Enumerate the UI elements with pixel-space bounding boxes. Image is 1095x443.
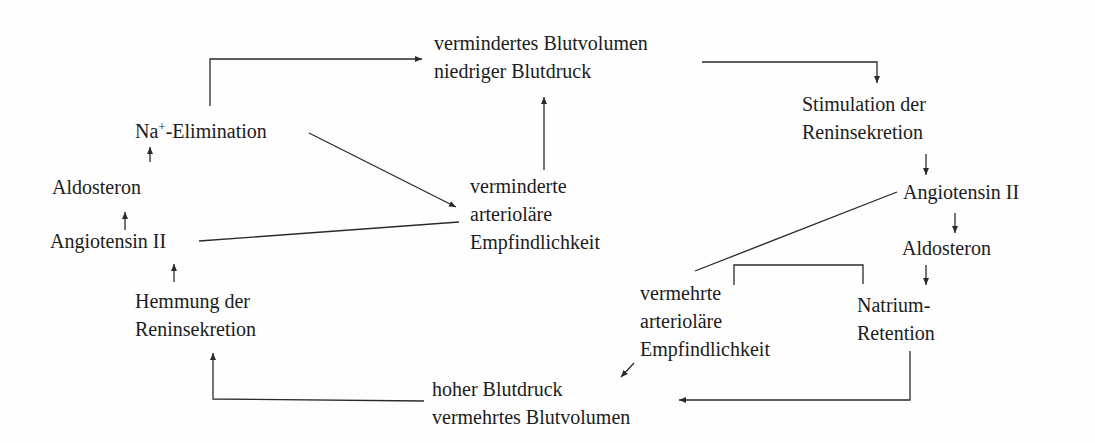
node-increased-arteriolar-sensitivity: vermehrte arterioläre Empfindlichkeit [640, 279, 770, 363]
node-natrium-retention: Natrium- Retention [857, 291, 935, 347]
node-stim-renin-line1: Stimulation der [802, 90, 926, 118]
node-aldosteron-left-label: Aldosteron [52, 173, 141, 201]
edge-low-volume-to-stim-renin [702, 62, 877, 83]
node-angiotensin-right-label: Angiotensin II [903, 178, 1019, 206]
node-aldosteron-left: Aldosteron [52, 173, 141, 201]
node-natrium-line2: Retention [857, 319, 935, 347]
node-stimulation-renin: Stimulation der Reninsekretion [802, 90, 926, 146]
edge-angiotensin-left-to-decreased-sensitivity [199, 222, 459, 241]
node-stim-renin-line2: Reninsekretion [802, 118, 926, 146]
node-angiotensin-left: Angiotensin II [50, 227, 166, 255]
na-superscript: + [158, 119, 165, 134]
node-decreased-arteriolar-sensitivity: verminderte arterioläre Empfindlichkeit [470, 172, 600, 256]
edge-angiotensin-right-to-increased-sensitivity [695, 192, 897, 271]
node-decreased-line3: Empfindlichkeit [470, 228, 600, 256]
na-prefix: Na [135, 120, 158, 142]
node-inhib-renin-line2: Reninsekretion [135, 315, 256, 343]
node-inhib-renin-line1: Hemmung der [135, 287, 256, 315]
node-increased-line1: vermehrte [640, 279, 770, 307]
node-natrium-line1: Natrium- [857, 291, 935, 319]
na-suffix: -Elimination [166, 120, 267, 142]
node-high-pressure-line1: hoher Blutdruck [432, 375, 630, 403]
node-low-volume-line1: vermindertes Blutvolumen [434, 29, 648, 57]
edge-na-elimination-to-low-volume [210, 59, 422, 106]
node-increased-line2: arterioläre [640, 307, 770, 335]
renin-angiotensin-feedback-diagram: vermindertes Blutvolumen niedriger Blutd… [0, 0, 1095, 443]
node-high-pressure-line2: vermehrtes Blutvolumen [432, 403, 630, 431]
node-decreased-line1: verminderte [470, 172, 600, 200]
node-na-elimination: Na+-Elimination [135, 117, 267, 145]
edge-high-pressure-to-inhib-renin [213, 353, 424, 401]
node-aldosteron-right: Aldosteron [902, 234, 991, 262]
edge-na-elimination-to-decreased-sensitivity [309, 133, 456, 207]
node-low-volume-low-pressure: vermindertes Blutvolumen niedriger Blutd… [434, 29, 648, 85]
node-inhibition-renin: Hemmung der Reninsekretion [135, 287, 256, 343]
node-angiotensin-right: Angiotensin II [903, 178, 1019, 206]
node-decreased-line2: arterioläre [470, 200, 600, 228]
node-aldosteron-right-label: Aldosteron [902, 234, 991, 262]
node-high-pressure-high-volume: hoher Blutdruck vermehrtes Blutvolumen [432, 375, 630, 431]
node-increased-line3: Empfindlichkeit [640, 335, 770, 363]
node-angiotensin-left-label: Angiotensin II [50, 227, 166, 255]
node-low-volume-line2: niedriger Blutdruck [434, 57, 648, 85]
